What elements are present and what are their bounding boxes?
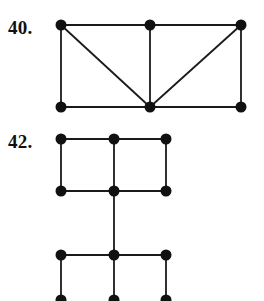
vertex-r1c1 [56, 134, 67, 145]
vertex-r2c2 [109, 186, 120, 197]
vertex-r4c3 [161, 295, 172, 301]
vertex-r1c3 [161, 134, 172, 145]
vertex-r2c1 [56, 186, 67, 197]
vertex-top-middle [145, 20, 156, 31]
problem-42-graph [0, 0, 264, 301]
vertex-top-right [236, 20, 247, 31]
problem-42-label: 42. [8, 132, 33, 151]
vertex-bottom-middle [145, 102, 156, 113]
vertex-top-left [56, 20, 67, 31]
problem-42-graph-canvas [0, 0, 264, 301]
vertex-r2c3 [161, 186, 172, 197]
problem-40-label: 40. [8, 18, 33, 37]
vertex-r4c2 [109, 295, 120, 301]
vertex-bottom-right [236, 102, 247, 113]
edge-diagonal-bottom-mid-top-right [150, 25, 241, 107]
vertex-r1c2 [109, 134, 120, 145]
vertex-r3c1 [56, 250, 67, 261]
problem-40-graph [0, 0, 264, 301]
vertex-bottom-left [56, 102, 67, 113]
problem-40-graph-canvas [0, 0, 264, 301]
vertex-r3c2 [109, 250, 120, 261]
vertex-r3c3 [161, 250, 172, 261]
figure-page: 40. 42. [0, 0, 264, 301]
edge-diagonal-top-left-bottom-mid [61, 25, 150, 107]
vertex-r4c1 [56, 295, 67, 301]
